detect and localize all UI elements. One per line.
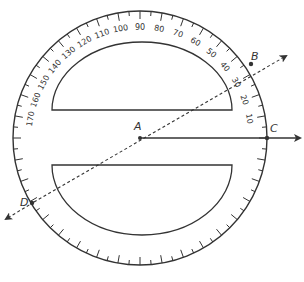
tick-mark: [86, 249, 88, 253]
tick-mark: [217, 229, 222, 235]
tick-mark: [181, 19, 184, 27]
tick-mark: [97, 19, 100, 27]
tick-mark: [258, 105, 262, 106]
tick-mark: [67, 34, 70, 38]
tick-mark: [25, 190, 29, 192]
tick-mark: [231, 56, 237, 61]
tick-mark: [58, 41, 63, 47]
tick-mark: [118, 255, 119, 263]
tick-mark: [252, 95, 259, 98]
label-B: B: [251, 50, 259, 63]
tick-mark: [240, 208, 244, 211]
tick-mark: [30, 75, 37, 79]
label-D: D: [20, 196, 28, 209]
tick-mark: [118, 13, 119, 21]
degree-label: 40: [218, 60, 231, 74]
tick-mark: [251, 84, 255, 86]
dashed-line-DB: [34, 56, 286, 202]
tick-mark: [67, 238, 70, 242]
tick-mark: [50, 48, 53, 51]
label-A: A: [133, 120, 142, 133]
tick-mark: [257, 159, 265, 160]
tick-mark: [43, 56, 49, 61]
tick-mark: [251, 190, 255, 192]
tick-mark: [43, 215, 49, 220]
tick-mark: [227, 225, 230, 228]
tick-mark: [172, 15, 173, 19]
tick-mark: [172, 256, 173, 260]
tick-mark: [161, 13, 162, 21]
tick-mark: [25, 84, 29, 86]
tick-mark: [97, 250, 100, 257]
tick-mark: [50, 225, 53, 228]
label-C: C: [270, 122, 278, 135]
degree-label: 10: [244, 113, 255, 125]
degree-label: 90: [135, 23, 145, 32]
degree-label: 20: [238, 94, 250, 107]
protractor-degree-labels: 1020304050607080901001101201301401501601…: [25, 23, 255, 128]
tick-mark: [36, 65, 40, 68]
degree-label: 130: [60, 45, 77, 62]
degree-label: 60: [189, 35, 202, 48]
point-D: [30, 201, 34, 205]
tick-mark: [15, 116, 23, 117]
degree-label: 80: [154, 23, 166, 34]
tick-mark: [258, 170, 262, 171]
degree-label: 140: [47, 58, 64, 75]
degree-label: 160: [29, 91, 43, 108]
tick-mark: [17, 170, 21, 171]
tick-mark: [192, 23, 194, 27]
point-C: [265, 136, 269, 140]
tick-mark: [58, 229, 63, 235]
tick-mark: [243, 198, 250, 202]
tick-mark: [181, 250, 184, 257]
degree-label: 70: [172, 28, 185, 40]
tick-mark: [15, 159, 23, 160]
tick-mark: [217, 41, 222, 47]
degree-label: 110: [93, 27, 110, 41]
degree-label: 170: [25, 110, 37, 127]
point-A: [138, 136, 142, 140]
tick-mark: [200, 241, 204, 248]
tick-mark: [227, 48, 230, 51]
tick-mark: [200, 28, 204, 35]
tick-mark: [240, 65, 244, 68]
tick-mark: [107, 15, 108, 19]
degree-label: 50: [205, 46, 219, 59]
tick-mark: [36, 208, 40, 211]
tick-mark: [252, 179, 259, 182]
tick-mark: [17, 105, 21, 106]
tick-mark: [161, 255, 162, 263]
tick-mark: [192, 249, 194, 253]
tick-mark: [21, 95, 29, 98]
protractor-diagram: 1020304050607080901001101201301401501601…: [0, 0, 304, 282]
degree-label: 100: [112, 23, 129, 35]
tick-mark: [77, 241, 81, 248]
tick-mark: [86, 23, 88, 27]
tick-mark: [257, 116, 265, 117]
tick-mark: [77, 28, 81, 35]
tick-mark: [210, 34, 213, 38]
tick-mark: [210, 238, 213, 242]
degree-label: 150: [36, 74, 51, 92]
tick-mark: [21, 179, 29, 182]
tick-mark: [107, 256, 108, 260]
degree-label: 120: [76, 34, 94, 49]
tick-mark: [231, 215, 237, 220]
